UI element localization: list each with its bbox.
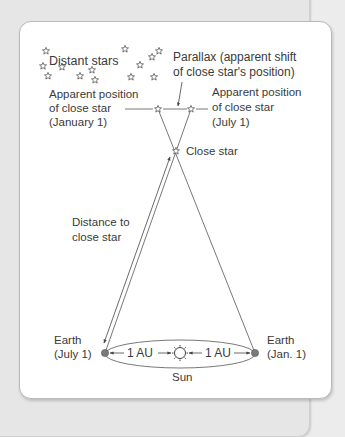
distance-label-line1: Distance to	[72, 216, 130, 228]
distant-star-icon	[156, 47, 163, 54]
apparent-jan-label-line3: (January 1)	[49, 116, 107, 128]
parallax-pointer-arrow	[178, 82, 182, 106]
sun-label: Sun	[172, 371, 192, 383]
apparent-jan-label-line1: Apparent position	[49, 88, 139, 100]
earth-jan-label-line1: Earth	[267, 334, 295, 346]
distance-arrow	[104, 157, 170, 343]
distant-star-icon	[77, 72, 84, 79]
parallax-label-line1: Parallax (apparent shift	[173, 50, 297, 64]
sun-icon	[172, 345, 188, 361]
apparent-jul-label-line3: (July 1)	[212, 116, 250, 128]
earth-july-label-line1: Earth	[54, 334, 82, 346]
distant-star-icon	[151, 73, 158, 80]
apparent-star-jan-icon	[155, 105, 162, 112]
earth-july-label-line2: (July 1)	[54, 348, 92, 360]
au-right-label: 1 AU	[205, 346, 231, 360]
distance-label-line2: close star	[72, 231, 121, 243]
apparent-jan-label-line2: of close star	[49, 102, 111, 114]
apparent-jul-label-line1: Apparent position	[212, 86, 302, 98]
earth-july-icon	[101, 349, 108, 356]
distant-star-icon	[40, 62, 47, 69]
distant-star-icon	[128, 73, 135, 80]
distant-stars-label: Distant stars	[49, 54, 118, 68]
apparent-star-jul-icon	[188, 105, 195, 112]
distant-star-icon	[92, 76, 99, 83]
distant-star-icon	[45, 72, 52, 79]
earth-jan-icon	[251, 349, 258, 356]
distant-star-icon	[122, 45, 129, 52]
apparent-jul-label-line2: of close star	[212, 101, 274, 113]
au-left-label: 1 AU	[127, 346, 153, 360]
distant-star-icon	[149, 53, 156, 60]
distant-star-icon	[137, 61, 144, 68]
close-star-label: Close star	[186, 145, 238, 157]
parallax-label-line2: of close star's position)	[173, 65, 295, 79]
earth-jan-label-line2: (Jan. 1)	[267, 348, 306, 360]
